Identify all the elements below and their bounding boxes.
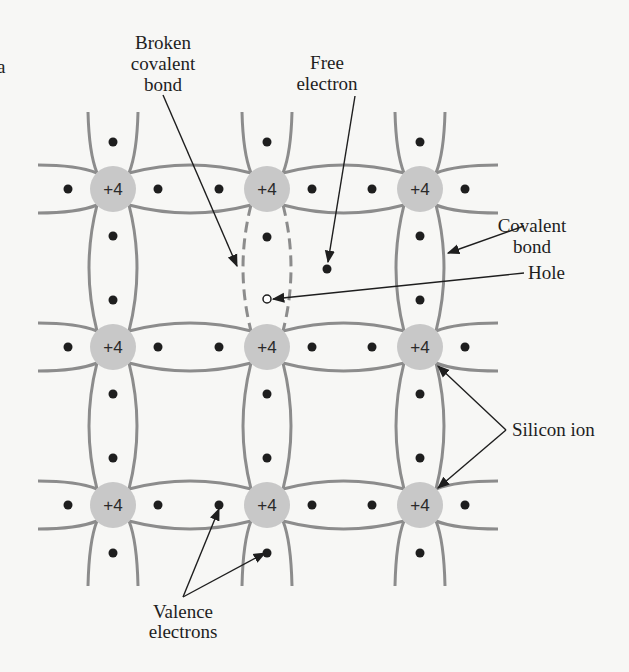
svg-text:bond: bond xyxy=(144,74,183,95)
valence-electron xyxy=(416,138,425,147)
svg-text:electron: electron xyxy=(296,73,358,94)
svg-text:Broken: Broken xyxy=(135,32,191,53)
bond-stub xyxy=(436,521,498,529)
svg-text:electrons: electrons xyxy=(149,621,218,642)
svg-text:Free: Free xyxy=(310,52,344,73)
bond-stub xyxy=(283,521,292,586)
broken-covalent-bond xyxy=(243,205,251,331)
bond-stub xyxy=(436,165,498,173)
valence-electron xyxy=(308,501,317,510)
ion-charge: +4 xyxy=(257,496,276,515)
valence-electron xyxy=(416,454,425,463)
bond-stub xyxy=(88,112,97,173)
covalent-bond xyxy=(129,205,251,213)
bond-stub xyxy=(38,205,97,213)
covalent-bond xyxy=(89,205,97,331)
bond-stub xyxy=(436,112,445,173)
bond-stub xyxy=(129,521,138,586)
valence-electron xyxy=(109,549,118,558)
valence-electron xyxy=(109,296,118,305)
ion-charge: +4 xyxy=(103,496,122,515)
broken-covalent-bond xyxy=(283,205,291,331)
lattice-svg: +4+4+4+4+4+4+4+4+4 a Broken covalent bon… xyxy=(0,0,629,672)
covalent-bond xyxy=(129,205,137,331)
valence-electron xyxy=(109,454,118,463)
covalent-bond xyxy=(283,521,404,529)
covalent-bond xyxy=(436,363,444,489)
valence-electron xyxy=(308,185,317,194)
covalent-bond xyxy=(396,363,404,489)
valence-electron xyxy=(64,343,73,352)
silicon-ion-leader-upper xyxy=(438,366,506,430)
ion-charge: +4 xyxy=(410,338,429,357)
valence-electron xyxy=(154,501,163,510)
valence-electron xyxy=(109,232,118,241)
silicon-lattice-diagram: +4+4+4+4+4+4+4+4+4 a Broken covalent bon… xyxy=(0,0,629,672)
ion-charge: +4 xyxy=(410,180,429,199)
covalent-bond xyxy=(283,205,404,213)
valence-electrons-label: Valence electrons xyxy=(149,601,218,642)
valence-electron xyxy=(368,501,377,510)
ion-charge: +4 xyxy=(103,180,122,199)
ion-charge: +4 xyxy=(257,338,276,357)
covalent-bond xyxy=(129,521,251,529)
covalent-bond xyxy=(283,363,291,489)
part-letter: a xyxy=(0,56,6,77)
covalent-bond xyxy=(243,363,251,489)
valence-electron xyxy=(215,501,224,510)
bond-stub xyxy=(88,521,97,586)
bond-stub xyxy=(38,363,97,371)
bond-stub xyxy=(129,112,138,173)
valence-electron xyxy=(461,343,470,352)
valence-electron xyxy=(416,549,425,558)
svg-text:Covalent: Covalent xyxy=(498,215,567,236)
hole-label: Hole xyxy=(528,262,565,283)
broken-bond-label: Broken covalent bond xyxy=(131,32,196,95)
valence-electron xyxy=(154,343,163,352)
bond-stub xyxy=(436,363,498,371)
bond-stub xyxy=(38,165,97,173)
covalent-bond xyxy=(129,363,251,371)
free-electron-leader xyxy=(328,96,355,262)
bond-stub xyxy=(38,481,97,489)
covalent-bond xyxy=(283,363,404,371)
ion-charge: +4 xyxy=(103,338,122,357)
bond-stub xyxy=(283,112,292,173)
hole xyxy=(263,295,271,303)
valence-electron xyxy=(154,185,163,194)
silicon-ions: +4+4+4+4+4+4+4+4+4 xyxy=(90,166,443,528)
ion-charge: +4 xyxy=(257,180,276,199)
valence-electron xyxy=(109,138,118,147)
bond-stub xyxy=(436,323,498,331)
bond-stub xyxy=(38,521,97,529)
valence-electron xyxy=(64,185,73,194)
valence-electron xyxy=(215,185,224,194)
covalent-bond xyxy=(89,363,97,489)
bond-stub xyxy=(436,205,498,213)
valence-electron xyxy=(263,390,272,399)
free-electron-label: Free electron xyxy=(296,52,358,94)
valence-electron xyxy=(368,185,377,194)
valence-electron xyxy=(461,185,470,194)
valence-electron xyxy=(109,390,118,399)
valence-electron xyxy=(308,343,317,352)
ion-charge: +4 xyxy=(410,496,429,515)
bond-stub xyxy=(38,323,97,331)
svg-text:Valence: Valence xyxy=(153,601,213,622)
valence-electron xyxy=(416,390,425,399)
covalent-bond xyxy=(129,363,137,489)
valence-electron xyxy=(461,501,470,510)
svg-text:covalent: covalent xyxy=(131,53,196,74)
broken-bond-leader xyxy=(163,95,237,266)
valence-electron xyxy=(368,343,377,352)
valence-leader-1 xyxy=(183,509,219,597)
valence-electron xyxy=(64,501,73,510)
covalent-bond xyxy=(129,481,251,489)
valence-electron xyxy=(416,232,425,241)
covalent-bond xyxy=(396,205,404,331)
covalent-bond-label: Covalent bond xyxy=(498,215,567,257)
covalent-bond xyxy=(283,481,404,489)
bond-stub xyxy=(242,521,251,586)
valence-leader-2 xyxy=(183,553,265,597)
bond-stub xyxy=(395,521,404,586)
